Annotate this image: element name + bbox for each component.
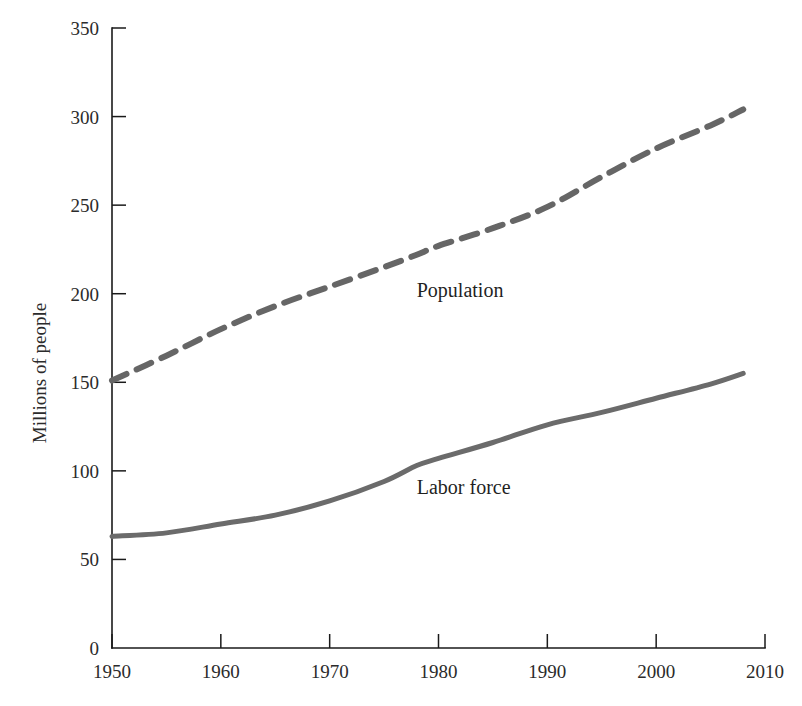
y-tick-label: 100	[71, 461, 100, 482]
x-tick-label: 2010	[746, 661, 784, 682]
y-tick-label: 200	[71, 284, 100, 305]
x-axis: 1950196019701980199020002010	[93, 634, 784, 682]
x-tick-label: 1990	[528, 661, 566, 682]
y-tick-label: 150	[71, 372, 100, 393]
x-tick-label: 1970	[311, 661, 349, 682]
y-tick-label: 0	[90, 638, 100, 659]
series-annotation-population: Population	[417, 279, 504, 302]
y-tick-label: 350	[71, 18, 100, 39]
x-tick-label: 1980	[420, 661, 458, 682]
y-axis: 050100150200250300350	[71, 18, 127, 659]
y-tick-label: 250	[71, 195, 100, 216]
y-tick-label: 300	[71, 107, 100, 128]
series-line-labor-force	[112, 373, 743, 536]
x-tick-group: 1950196019701980199020002010	[93, 634, 784, 682]
x-tick-label: 1960	[202, 661, 240, 682]
chart-container: 050100150200250300350 195019601970198019…	[0, 0, 802, 706]
population-labor-force-line-chart: 050100150200250300350 195019601970198019…	[0, 0, 802, 706]
x-tick-label: 1950	[93, 661, 131, 682]
series-annotation-labor-force: Labor force	[417, 476, 511, 498]
x-tick-label: 2000	[637, 661, 675, 682]
series-label-group: PopulationLabor force	[417, 279, 511, 498]
series-group	[112, 109, 743, 536]
series-line-population	[112, 109, 743, 380]
y-tick-group: 050100150200250300350	[71, 18, 127, 659]
y-tick-label: 50	[80, 549, 99, 570]
y-axis-title: Millions of people	[29, 303, 50, 443]
